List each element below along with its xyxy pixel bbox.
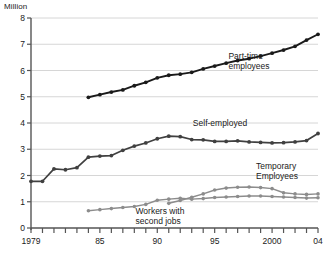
data-point [224, 195, 228, 199]
data-point [270, 51, 274, 55]
data-point [270, 195, 274, 199]
series-4 [87, 194, 320, 212]
series-label-line: Workers with [135, 206, 184, 216]
data-point [236, 139, 240, 143]
x-tick-label: 85 [95, 236, 105, 246]
data-point [213, 188, 217, 192]
data-point [132, 84, 136, 88]
data-point [236, 186, 240, 190]
data-point [167, 134, 171, 138]
data-point [293, 192, 297, 196]
data-point [190, 197, 194, 201]
data-point [316, 132, 320, 136]
data-point [155, 137, 159, 141]
line-chart-svg: 0123456781979859095200004Part-timeemploy… [0, 0, 324, 258]
y-tick-label: 8 [20, 13, 25, 23]
series-1 [87, 32, 320, 99]
data-point [282, 191, 286, 195]
data-point [213, 196, 217, 200]
series-label-line: employees [228, 61, 269, 71]
series-line [88, 34, 318, 97]
data-point [98, 93, 102, 97]
data-point [167, 202, 171, 206]
data-point [98, 154, 102, 158]
series-label-line: Temporary [256, 161, 297, 171]
data-point [293, 140, 297, 144]
data-point [75, 166, 79, 170]
data-point [87, 209, 91, 213]
data-point [213, 64, 217, 68]
data-point [247, 140, 251, 144]
x-tick-label: 1979 [22, 236, 41, 246]
series-label-line: Employees [256, 171, 298, 181]
data-point [247, 194, 251, 198]
y-tick-label: 2 [20, 171, 25, 181]
data-point [87, 95, 91, 99]
data-point [29, 179, 33, 183]
data-point [305, 38, 309, 42]
y-tick-label: 1 [20, 197, 25, 207]
series-label-line: Self-employed [193, 118, 248, 128]
data-point [282, 195, 286, 199]
data-point [270, 187, 274, 191]
y-tick-label: 7 [20, 39, 25, 49]
data-point [178, 135, 182, 139]
data-point [247, 185, 251, 189]
data-point [110, 207, 114, 211]
data-point [121, 88, 125, 92]
data-point [144, 141, 148, 145]
y-tick-label: 5 [20, 92, 25, 102]
data-point [259, 186, 263, 190]
x-tick-label: 2000 [263, 236, 282, 246]
data-point [305, 193, 309, 197]
x-tick-label: 04 [313, 236, 323, 246]
data-point [121, 148, 125, 152]
chart-container: Million 0123456781979859095200004Part-ti… [0, 0, 324, 258]
data-point [213, 139, 217, 143]
data-point [236, 195, 240, 199]
x-tick-label: 95 [210, 236, 220, 246]
data-point [259, 141, 263, 145]
series-label: Self-employed [193, 118, 248, 128]
series-label-line: Part-time [228, 51, 263, 61]
data-point [167, 73, 171, 77]
data-point [121, 206, 125, 210]
data-point [144, 80, 148, 84]
series-label: Workers withsecond jobs [135, 206, 184, 226]
data-point [201, 138, 205, 142]
data-point [132, 144, 136, 148]
data-point [155, 76, 159, 80]
data-point [87, 155, 91, 159]
data-point [282, 141, 286, 145]
data-point [109, 90, 113, 94]
data-point [190, 138, 194, 142]
series-label: Part-timeemployees [228, 51, 269, 71]
y-tick-label: 0 [20, 223, 25, 233]
data-point [293, 44, 297, 48]
data-point [41, 179, 45, 183]
series-label: TemporaryEmployees [256, 161, 298, 181]
data-point [98, 208, 102, 212]
y-tick-label: 6 [20, 66, 25, 76]
data-point [64, 168, 68, 172]
data-point [316, 192, 320, 196]
data-point [293, 196, 297, 200]
data-point [109, 154, 113, 158]
data-point [178, 72, 182, 76]
data-point [155, 198, 159, 202]
data-point [190, 70, 194, 74]
y-tick-label: 3 [20, 144, 25, 154]
data-point [224, 186, 228, 190]
data-point [178, 197, 182, 201]
data-point [305, 196, 309, 200]
data-point [305, 139, 309, 143]
data-point [52, 167, 56, 171]
data-point [282, 48, 286, 52]
data-point [259, 194, 263, 198]
data-point [167, 197, 171, 201]
data-point [201, 192, 205, 196]
data-point [224, 139, 228, 143]
data-point [316, 32, 320, 36]
data-point [201, 197, 205, 201]
data-point [316, 196, 320, 200]
